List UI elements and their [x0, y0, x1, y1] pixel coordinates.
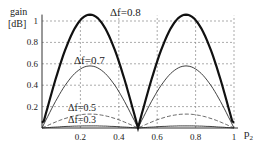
annotation-df-0.8: Δf=0.8	[110, 6, 141, 18]
y-tick-label: 0.2	[27, 102, 38, 112]
annotation-df-0.7: Δf=0.7	[74, 54, 105, 66]
y-axis-label-line2: [dB]	[8, 18, 26, 29]
x-tick-label: 0.8	[190, 132, 202, 142]
y-tick-label: 0.4	[27, 80, 39, 90]
x-tick-label: 0.6	[152, 132, 164, 142]
x-axis-label: p2	[244, 127, 254, 142]
x-tick-label: 1	[232, 132, 237, 142]
y-tick-label: 0.6	[27, 59, 39, 69]
x-tick-label: 0.4	[113, 132, 125, 142]
gain-chart: 0.20.40.60.810.20.40.60.81 gain [dB] p2 …	[0, 0, 267, 153]
x-tick-label: 0.2	[75, 132, 86, 142]
y-tick-label: 0.8	[27, 37, 39, 47]
y-tick-label: 1	[34, 16, 39, 26]
annotation-df-0.5: Δf=0.5	[68, 102, 96, 113]
annotation-df-0.3: Δf=0.3	[68, 114, 96, 125]
y-axis-label-line1: gain	[10, 6, 27, 17]
